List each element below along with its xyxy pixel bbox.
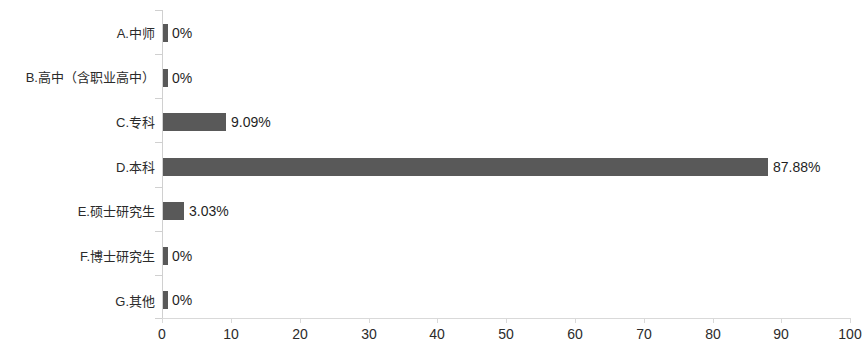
bar-value-a: 0% <box>172 24 192 42</box>
y-axis-tick <box>155 98 162 99</box>
bar-g <box>163 291 168 309</box>
category-label-c: C.专科 <box>0 115 155 131</box>
bar-chart: A.中师 B.高中（含职业高中） C.专科 D.本科 E.硕士研究生 F.博士研… <box>0 0 868 349</box>
x-axis-tick <box>713 318 714 323</box>
x-axis-tick-label: 20 <box>280 326 320 342</box>
x-axis-tick-label: 0 <box>142 326 182 342</box>
y-axis-tick <box>155 318 162 319</box>
x-axis-tick <box>437 318 438 323</box>
bar-c <box>163 113 226 131</box>
bar-value-d: 87.88% <box>773 158 820 176</box>
x-axis-tick <box>506 318 507 323</box>
x-axis-tick-label: 80 <box>693 326 733 342</box>
x-axis-tick <box>231 318 232 323</box>
x-axis-tick-label: 40 <box>417 326 457 342</box>
x-axis-tick <box>781 318 782 323</box>
x-axis-tick <box>162 318 163 323</box>
bar-value-c: 9.09% <box>231 113 271 131</box>
y-axis-tick <box>155 231 162 232</box>
y-axis-tick <box>155 54 162 55</box>
bar-value-g: 0% <box>172 291 192 309</box>
bar-d <box>163 158 768 176</box>
x-axis-tick <box>850 318 851 323</box>
category-label-e: E.硕士研究生 <box>0 204 155 220</box>
x-axis-tick <box>300 318 301 323</box>
bar-e <box>163 202 184 220</box>
x-axis-tick-label: 70 <box>624 326 664 342</box>
bar-value-f: 0% <box>172 247 192 265</box>
x-axis-tick <box>369 318 370 323</box>
category-label-g: G.其他 <box>0 294 155 310</box>
category-label-d: D.本科 <box>0 160 155 176</box>
x-axis-tick-label: 100 <box>830 326 868 342</box>
x-axis-tick-label: 10 <box>211 326 251 342</box>
x-axis-tick <box>575 318 576 323</box>
y-axis-tick <box>155 187 162 188</box>
x-axis-tick <box>644 318 645 323</box>
x-axis-tick-label: 60 <box>555 326 595 342</box>
x-axis-tick-label: 90 <box>761 326 801 342</box>
x-axis-tick-label: 50 <box>486 326 526 342</box>
y-axis-tick <box>155 142 162 143</box>
bar-f <box>163 247 168 265</box>
x-axis-tick-label: 30 <box>349 326 389 342</box>
bar-value-b: 0% <box>172 69 192 87</box>
bar-value-e: 3.03% <box>189 202 229 220</box>
bar-a <box>163 24 168 42</box>
category-label-f: F.博士研究生 <box>0 249 155 265</box>
y-axis-tick <box>155 275 162 276</box>
y-axis-tick <box>155 10 162 11</box>
category-label-b: B.高中（含职业高中） <box>0 70 155 86</box>
category-label-a: A.中师 <box>0 26 155 42</box>
bar-b <box>163 69 168 87</box>
